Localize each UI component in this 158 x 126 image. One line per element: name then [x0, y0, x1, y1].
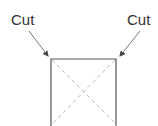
- right-arrow: [120, 31, 140, 56]
- diagonal-2: [52, 60, 115, 124]
- square-cut-diagram: [0, 0, 158, 126]
- left-arrow: [29, 31, 48, 56]
